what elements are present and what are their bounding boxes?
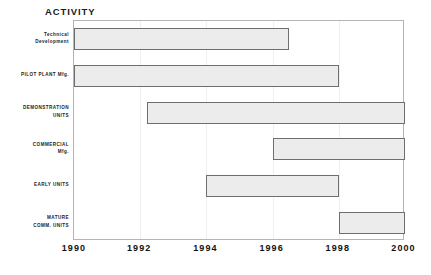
page-title: ACTIVITY <box>45 6 95 17</box>
row-label-line: Development <box>3 38 69 46</box>
task-bar <box>273 138 405 160</box>
gridline <box>140 21 141 239</box>
row-label: TechnicalDevelopment <box>3 31 73 46</box>
x-tick-label: 1990 <box>62 243 86 253</box>
task-bar <box>206 175 338 197</box>
row-label-line: EARLY UNITS <box>3 181 69 189</box>
x-tick-label: 1994 <box>193 243 217 253</box>
row-label-line: DEMONSTRATION <box>3 104 69 112</box>
row-label: EARLY UNITS <box>3 181 73 189</box>
task-bar <box>339 212 405 234</box>
x-tick-label: 1996 <box>259 243 283 253</box>
row-label-line: Technical <box>3 31 69 39</box>
gridline <box>273 21 274 239</box>
row-label-line: MATURE <box>3 214 69 222</box>
x-tick-label: 1992 <box>127 243 151 253</box>
row-label: PILOT PLANT Mfg. <box>3 71 73 79</box>
plot-frame <box>73 20 404 240</box>
x-axis: 199019921994199619982000 <box>73 243 404 261</box>
gantt-chart: ACTIVITY TechnicalDevelopmentPILOT PLANT… <box>0 0 431 275</box>
row-label-line: COMMERCIAL <box>3 141 69 149</box>
row-label: MATURECOMM. UNITS <box>3 214 73 229</box>
row-label: DEMONSTRATIONUNITS <box>3 104 73 119</box>
task-bar <box>74 28 289 50</box>
task-bar <box>74 65 339 87</box>
row-label: COMMERCIALMfg. <box>3 141 73 156</box>
row-label-column: TechnicalDevelopmentPILOT PLANT Mfg.DEMO… <box>0 20 73 240</box>
x-tick-label: 1998 <box>326 243 350 253</box>
row-label-line: UNITS <box>3 112 69 120</box>
row-label-line: Mfg. <box>3 148 69 156</box>
gridline <box>206 21 207 239</box>
row-label-line: PILOT PLANT Mfg. <box>3 71 69 79</box>
row-label-line: COMM. UNITS <box>3 222 69 230</box>
x-tick-label: 2000 <box>391 243 415 253</box>
gridline <box>339 21 340 239</box>
plot-area <box>74 21 403 239</box>
task-bar <box>147 102 405 124</box>
